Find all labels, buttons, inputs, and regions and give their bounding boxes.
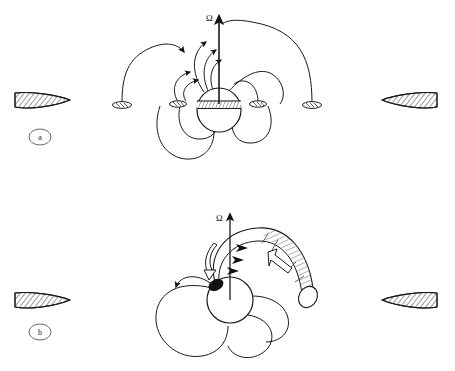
field-line-hook-2 [184, 80, 198, 101]
left-disk-wedge-b [10, 288, 76, 314]
omega-label-a: Ω [206, 13, 213, 23]
right-disk-wedge [378, 88, 444, 114]
footpoint-right [250, 101, 267, 107]
tube-arrowhead-1 [236, 244, 248, 252]
right-disk-wedge-b [378, 288, 444, 314]
panel-label-a: a [29, 129, 51, 145]
tube-arrowhead-3 [227, 267, 239, 275]
panel-b: Ω b [10, 213, 444, 358]
omega-label-b: Ω [216, 213, 223, 223]
tube-arrowhead-2 [232, 256, 244, 264]
field-line-outer-right [222, 20, 312, 103]
svg-text:b: b [38, 328, 42, 337]
field-line-arc-2 [204, 50, 216, 93]
panel-a: Ω a [10, 13, 444, 159]
svg-text:a: a [38, 133, 42, 142]
figure-container: Ω a [0, 0, 455, 371]
footpoint-far-left [113, 102, 132, 109]
left-disk-wedge [10, 88, 76, 114]
diagram-svg: Ω a [0, 0, 455, 371]
flux-tube-end-cap [295, 283, 321, 311]
footpoint-far-right [303, 102, 322, 109]
field-line-hook-1 [174, 72, 190, 102]
footpoint-left [170, 101, 187, 107]
panel-label-b: b [29, 324, 51, 340]
